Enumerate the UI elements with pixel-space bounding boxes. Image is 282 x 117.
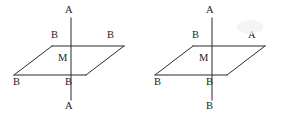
left-axis-top-label: A <box>65 5 73 16</box>
left-edge-upper-left <box>14 46 52 75</box>
right-axis-top-label: A <box>206 5 214 16</box>
left-plane-upper-left-label: B <box>51 30 58 41</box>
right-edge-upper-left <box>155 46 193 75</box>
left-center-label: M <box>58 53 67 64</box>
left-figure-panel: A B B M B B A <box>0 0 141 117</box>
left-plane-lower-right-label: B <box>65 77 72 88</box>
right-center-label: M <box>199 53 208 64</box>
right-plane-upper-left-label: B <box>192 30 199 41</box>
right-figure-panel: A B A M B B B <box>141 0 282 117</box>
scan-artifact-smudge <box>237 20 263 34</box>
right-plane-lower-left-label: B <box>154 77 161 88</box>
left-axis-bottom-label: A <box>65 101 73 112</box>
left-edge-upper-right <box>86 46 124 75</box>
left-plane-upper-right-label: B <box>107 30 114 41</box>
figure-board: A B B M B B A A B A M B B B <box>0 0 282 117</box>
right-axis-bottom-label: B <box>206 101 213 112</box>
left-plane-lower-left-label: B <box>13 77 20 88</box>
right-edge-upper-right <box>227 46 265 75</box>
right-plane-lower-right-label: B <box>206 77 213 88</box>
